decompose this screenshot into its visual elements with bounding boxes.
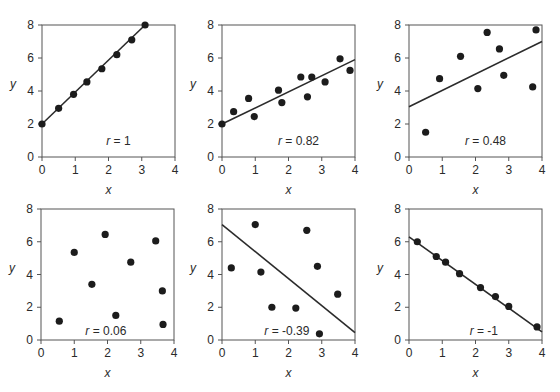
- y-tick-label: 4: [394, 268, 401, 282]
- data-point: [55, 105, 62, 112]
- scatter-panel-bottom-left: 0123402468xyr = 0.06: [8, 202, 178, 380]
- regression-line: [222, 225, 355, 333]
- x-axis-label: x: [472, 183, 480, 197]
- data-point: [314, 263, 321, 270]
- data-point: [505, 303, 512, 310]
- y-tick-label: 0: [26, 333, 33, 347]
- y-tick-label: 4: [26, 268, 33, 282]
- x-tick-label: 3: [505, 346, 512, 360]
- y-tick-label: 0: [207, 150, 214, 164]
- x-tick-label: 4: [352, 163, 359, 177]
- data-point: [230, 108, 237, 115]
- data-point: [334, 291, 341, 298]
- x-tick-label: 4: [539, 346, 546, 360]
- x-tick-label: 1: [439, 163, 446, 177]
- x-tick-label: 1: [252, 163, 259, 177]
- y-tick-label: 6: [394, 235, 401, 249]
- x-tick-label: 2: [285, 163, 292, 177]
- data-point: [56, 318, 63, 325]
- data-point: [83, 78, 90, 85]
- y-tick-label: 4: [27, 84, 34, 98]
- data-point: [422, 129, 429, 136]
- y-tick-label: 6: [394, 51, 401, 65]
- regression-line: [409, 237, 542, 332]
- y-tick-label: 8: [27, 18, 34, 32]
- y-tick-label: 0: [394, 333, 401, 347]
- data-point: [252, 221, 259, 228]
- x-axis-label: x: [285, 366, 293, 380]
- data-point: [88, 281, 95, 288]
- scatter-panel-top-left: 0123402468xyr = 1: [9, 18, 179, 197]
- data-point: [245, 95, 252, 102]
- data-point: [128, 36, 135, 43]
- data-point: [532, 26, 539, 33]
- correlation-label: r = -1: [470, 324, 499, 338]
- correlation-label: r = 0.06: [85, 324, 126, 338]
- plot-frame: [222, 209, 355, 340]
- y-axis-label: y: [189, 261, 197, 275]
- data-point: [278, 99, 285, 106]
- x-tick-label: 0: [39, 163, 46, 177]
- correlation-label: r = 0.48: [465, 134, 506, 148]
- data-point: [218, 120, 225, 127]
- data-point: [38, 120, 45, 127]
- x-tick-label: 1: [439, 346, 446, 360]
- data-point: [484, 29, 491, 36]
- y-tick-label: 6: [207, 51, 214, 65]
- y-tick-label: 2: [394, 117, 401, 131]
- y-tick-label: 8: [394, 202, 401, 216]
- correlation-label: r = -0.39: [264, 324, 309, 338]
- y-tick-label: 8: [26, 202, 33, 216]
- y-tick-label: 6: [27, 51, 34, 65]
- data-point: [70, 91, 77, 98]
- data-point: [268, 304, 275, 311]
- y-tick-label: 4: [207, 84, 214, 98]
- data-point: [433, 253, 440, 260]
- y-tick-label: 0: [207, 333, 214, 347]
- y-axis-label: y: [8, 261, 16, 275]
- y-tick-label: 8: [207, 18, 214, 32]
- data-point: [275, 87, 282, 94]
- y-tick-label: 4: [394, 84, 401, 98]
- x-tick-label: 3: [318, 346, 325, 360]
- data-point: [303, 227, 310, 234]
- data-point: [496, 45, 503, 52]
- scatter-panel-bottom-middle: 0123402468xyr = -0.39: [189, 202, 359, 380]
- data-point: [71, 249, 78, 256]
- y-tick-label: 8: [394, 18, 401, 32]
- y-axis-label: y: [189, 77, 197, 91]
- x-tick-label: 4: [539, 163, 546, 177]
- y-tick-label: 2: [26, 300, 33, 314]
- data-point: [292, 304, 299, 311]
- data-point: [414, 238, 421, 245]
- y-tick-label: 4: [207, 268, 214, 282]
- data-point: [456, 270, 463, 277]
- data-point: [492, 293, 499, 300]
- y-tick-label: 2: [207, 117, 214, 131]
- scatter-panel-bottom-right: 0123402468xyr = -1: [376, 202, 546, 380]
- data-point: [457, 53, 464, 60]
- x-tick-label: 2: [105, 163, 112, 177]
- y-axis-label: y: [9, 77, 17, 91]
- x-tick-label: 4: [352, 346, 359, 360]
- data-point: [98, 65, 105, 72]
- x-tick-label: 1: [252, 346, 259, 360]
- x-tick-label: 4: [172, 163, 179, 177]
- data-point: [113, 51, 120, 58]
- data-point: [436, 75, 443, 82]
- y-tick-label: 0: [394, 150, 401, 164]
- data-point: [308, 73, 315, 80]
- x-axis-label: x: [285, 183, 293, 197]
- data-point: [533, 323, 540, 330]
- x-tick-label: 2: [104, 346, 111, 360]
- data-point: [304, 93, 311, 100]
- data-point: [477, 284, 484, 291]
- y-axis-label: y: [376, 261, 384, 275]
- x-tick-label: 2: [472, 163, 479, 177]
- data-point: [336, 55, 343, 62]
- data-point: [159, 321, 166, 328]
- correlation-label: r = 0.82: [278, 134, 319, 148]
- x-tick-label: 0: [406, 346, 413, 360]
- y-tick-label: 8: [207, 202, 214, 216]
- data-point: [321, 78, 328, 85]
